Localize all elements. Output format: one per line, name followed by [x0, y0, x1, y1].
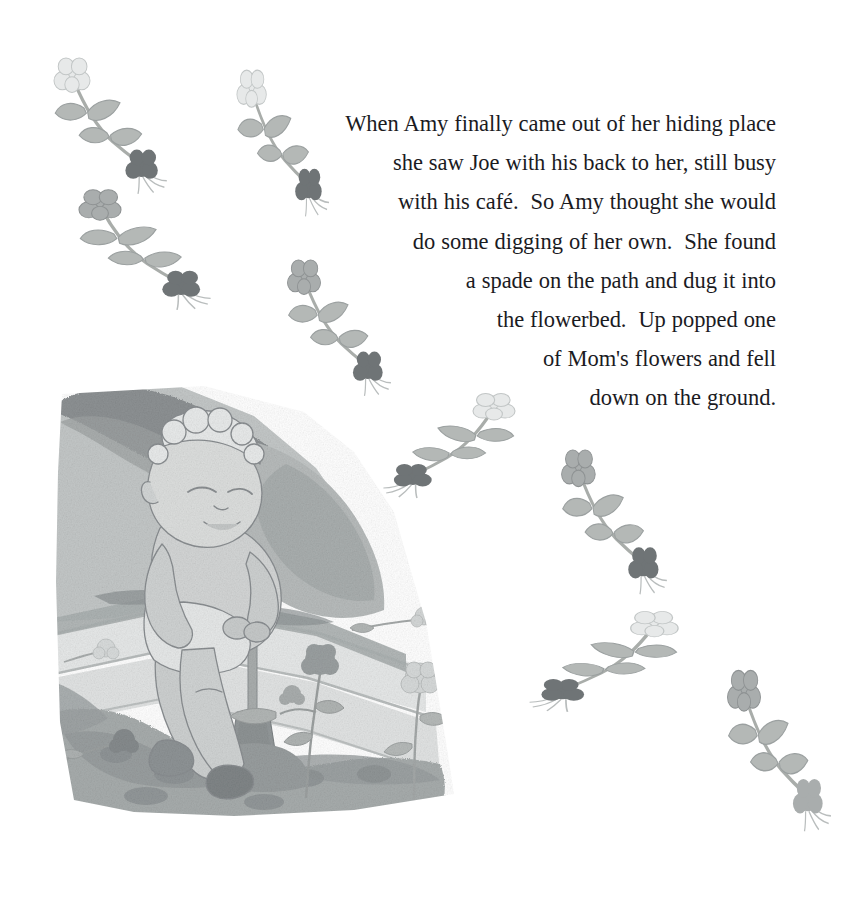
- story-line: do some digging of her own. She found: [300, 222, 776, 261]
- illustration-child-digging: [54, 382, 466, 820]
- story-line: When Amy finally came out of her hiding …: [300, 104, 776, 143]
- story-line: of Mom's flowers and fell: [300, 339, 776, 378]
- sprig-leaf-b: [118, 227, 156, 245]
- garden-flower-light-bloom: [401, 662, 439, 693]
- sprig-right-mid: [528, 610, 686, 706]
- sprig-stem: [254, 96, 307, 183]
- sprig-leaf-c: [257, 145, 282, 161]
- sprig-stem: [74, 82, 139, 163]
- sprig-root-hairs: [177, 292, 211, 310]
- sprig-root-clump: [628, 547, 658, 578]
- sprig-root-clump: [793, 779, 823, 814]
- sprig-leaf-b: [758, 720, 788, 744]
- story-line: down on the ground.: [300, 378, 776, 417]
- story-line: a spade on the path and dug it into: [300, 261, 776, 300]
- sprig-leaf-d: [145, 252, 181, 267]
- sprig-leaf-a: [80, 230, 116, 245]
- sprig-leaf-d: [563, 663, 604, 676]
- sprig-root-hairs: [138, 173, 167, 194]
- sprig-leaf-d: [779, 754, 808, 774]
- sprig-root-hairs: [640, 572, 667, 594]
- sprig-root-hairs: [805, 807, 831, 832]
- sprig-leaf-a: [563, 498, 592, 516]
- sprig-leaf-c: [79, 128, 109, 143]
- story-line: the flowerbed. Up popped one: [300, 300, 776, 339]
- sprig-leaf-d: [614, 525, 643, 543]
- garden-flower-light-leaf-2: [420, 713, 448, 726]
- sprig-leaf-b: [591, 643, 634, 658]
- child-hand-lower: [244, 622, 270, 642]
- sprig-top-left: [48, 56, 168, 186]
- sprig-root-clump: [125, 150, 157, 179]
- sprig-root-hairs: [530, 696, 568, 711]
- sprig-root-clump: [541, 679, 584, 701]
- sprig-stem: [746, 699, 805, 794]
- sprig-root-clump: [162, 271, 200, 297]
- sprig-leaf-a: [55, 103, 86, 120]
- sprig-stem: [566, 629, 651, 689]
- child-shoe-front: [206, 765, 253, 799]
- story-line: she saw Joe with his back to her, still …: [300, 143, 776, 182]
- sprig-leaf-d: [110, 128, 141, 145]
- story-line: with his café. So Amy thought she would: [300, 182, 776, 221]
- sprig-bloom: [237, 70, 266, 107]
- sprig-leaf-c: [585, 524, 613, 540]
- sprig-bloom: [631, 611, 678, 636]
- sprig-leaf-a: [729, 724, 758, 744]
- sprig-leaf-a: [238, 119, 263, 137]
- sprig-leaf-b: [88, 100, 120, 120]
- sprig-right-upper: [556, 448, 668, 586]
- sprig-bloom: [54, 58, 90, 92]
- sprig-bloom: [79, 190, 121, 220]
- sprig-bloom: [728, 670, 761, 711]
- story-text-block: When Amy finally came out of her hiding …: [300, 104, 776, 418]
- sprig-stem: [581, 476, 641, 562]
- book-page: When Amy finally came out of her hiding …: [0, 0, 860, 904]
- sprig-leaf-a: [477, 429, 513, 442]
- sprig-leaf-c: [108, 251, 143, 264]
- sprig-leaf-a: [635, 645, 676, 657]
- sprig-bottom-right: [722, 668, 832, 822]
- sprig-stem: [103, 211, 179, 282]
- sprig-leaf-b: [264, 116, 290, 138]
- sprig-upper-left-mid: [72, 188, 212, 303]
- sprig-leaf-b: [593, 495, 623, 516]
- sprig-leaf-c: [605, 663, 645, 674]
- sprig-leaf-c: [751, 753, 779, 771]
- sprig-bloom: [562, 450, 596, 487]
